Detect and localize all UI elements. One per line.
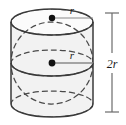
cylinder-sphere-figure: r r 2r [0,0,126,125]
cylinder-side-surface [11,22,93,117]
top-center-dot [49,15,55,21]
sphere-center-dot [49,60,56,67]
height-dimension: 2r [104,13,121,112]
geometry-diagram-svg: r r 2r [0,0,126,125]
top-radius-label: r [70,4,75,16]
height-dimension-label: 2r [107,57,118,71]
center-radius-label: r [70,49,75,61]
